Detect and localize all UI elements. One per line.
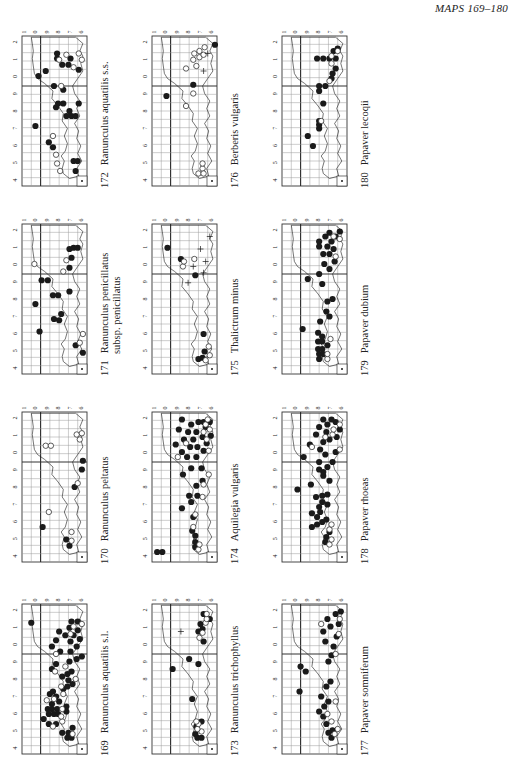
record-dot-open <box>195 726 200 731</box>
svg-text:0: 0 <box>162 599 168 602</box>
svg-text:4: 4 <box>142 747 148 750</box>
distribution-map-178: 210987654109876178Papaver rhoeas <box>268 398 440 588</box>
record-dot-open <box>61 691 66 696</box>
record-dot-filled <box>301 454 307 460</box>
record-dot-filled <box>327 678 333 684</box>
record-dot-open <box>333 254 338 259</box>
record-dot-filled <box>324 464 330 470</box>
record-dot-open <box>337 422 342 427</box>
record-dot-open <box>43 443 48 448</box>
svg-text:9: 9 <box>44 31 50 34</box>
svg-text:2: 2 <box>12 41 18 44</box>
record-dot-open <box>204 437 209 442</box>
record-dot-filled <box>314 55 320 61</box>
record-dot-filled <box>45 277 51 283</box>
svg-text:0: 0 <box>162 407 168 410</box>
record-dot-open <box>181 259 186 264</box>
svg-text:1: 1 <box>272 246 278 249</box>
svg-text:6: 6 <box>338 219 344 222</box>
svg-text:5: 5 <box>142 349 148 352</box>
record-dot-open <box>53 152 58 157</box>
record-dot-open <box>183 441 188 446</box>
svg-text:0: 0 <box>142 643 148 646</box>
record-dot-filled <box>65 677 71 683</box>
record-dot-filled <box>66 658 72 664</box>
record-dot-filled <box>80 350 86 356</box>
record-dot-open <box>336 631 341 636</box>
species-name: Papaver dubium <box>359 285 370 354</box>
record-dot-filled <box>324 421 330 427</box>
record-dot-filled <box>189 696 195 702</box>
map-number: 174 <box>229 548 241 564</box>
record-dot-filled <box>32 301 38 307</box>
record-dot-filled <box>79 466 85 472</box>
map-number: 171 <box>99 360 111 376</box>
map-caption: 177Papaver somniferum <box>359 646 371 756</box>
svg-text:1: 1 <box>142 246 148 249</box>
record-dot-open <box>76 51 81 56</box>
svg-text:7: 7 <box>272 315 278 318</box>
svg-text:9: 9 <box>304 599 310 602</box>
svg-text:6: 6 <box>338 31 344 34</box>
map-caption: 178Papaver rhoeas <box>359 477 371 564</box>
record-dot-filled <box>39 277 45 283</box>
record-dot-filled <box>73 113 79 119</box>
record-dot-filled <box>337 228 343 234</box>
record-dot-filled <box>54 50 60 56</box>
record-dot-filled <box>58 311 64 317</box>
svg-text:4: 4 <box>12 367 18 370</box>
record-dot-open <box>207 427 212 432</box>
svg-text:2: 2 <box>272 609 278 612</box>
record-dot-filled <box>51 83 57 89</box>
record-dot-filled <box>192 272 198 278</box>
svg-text:8: 8 <box>185 407 191 410</box>
svg-text:8: 8 <box>272 486 278 489</box>
record-dot-open <box>196 171 201 176</box>
map-caption: 171Ranunculus penicillatussubsp. penicil… <box>99 253 123 376</box>
map-number: 173 <box>229 740 241 756</box>
svg-text:9: 9 <box>12 280 18 283</box>
record-dot-open <box>50 724 55 729</box>
record-dot-filled <box>43 68 49 74</box>
record-dot-open <box>79 621 84 626</box>
svg-text:7: 7 <box>272 695 278 698</box>
svg-text:9: 9 <box>174 31 180 34</box>
map-number: 179 <box>359 360 371 376</box>
svg-text:7: 7 <box>67 219 73 222</box>
record-dot-filled <box>49 643 55 649</box>
record-dot-filled <box>320 55 326 61</box>
svg-text:0: 0 <box>12 451 18 454</box>
svg-text:1: 1 <box>281 31 287 34</box>
record-dot-open <box>332 731 337 736</box>
record-dot-open <box>201 482 206 487</box>
svg-text:1: 1 <box>142 434 148 437</box>
svg-text:6: 6 <box>142 712 148 715</box>
record-dot-filled <box>68 668 74 674</box>
species-name: Ranunculus penicillatus <box>99 253 110 354</box>
record-dot-filled <box>326 266 332 272</box>
svg-text:0: 0 <box>32 31 38 34</box>
record-dot-open <box>201 171 206 176</box>
svg-text:9: 9 <box>142 280 148 283</box>
record-dot-filled <box>179 416 185 422</box>
record-dot-filled <box>193 429 199 435</box>
svg-text:6: 6 <box>338 599 344 602</box>
svg-text:0: 0 <box>162 219 168 222</box>
record-cross <box>201 68 207 74</box>
svg-text:1: 1 <box>142 58 148 61</box>
record-dot-filled <box>51 316 57 322</box>
record-dot-open <box>48 443 53 448</box>
record-dot-filled <box>303 668 309 674</box>
record-dot-filled <box>75 245 81 251</box>
record-dot-filled <box>79 653 85 659</box>
svg-text:2: 2 <box>142 41 148 44</box>
svg-text:6: 6 <box>272 332 278 335</box>
record-dot-open <box>50 133 55 138</box>
svg-text:8: 8 <box>185 31 191 34</box>
record-dot-open <box>59 83 64 88</box>
record-dot-open <box>203 358 208 363</box>
record-dot-filled <box>305 276 311 282</box>
svg-text:4: 4 <box>272 747 278 750</box>
record-dot-open <box>329 522 334 527</box>
svg-text:7: 7 <box>142 315 148 318</box>
